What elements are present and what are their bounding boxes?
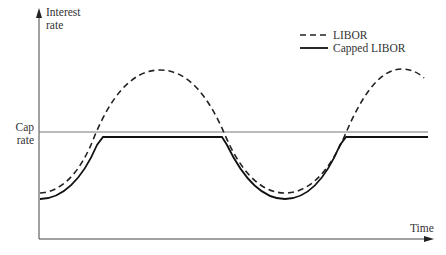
y-axis-arrow-icon <box>36 8 42 18</box>
cap-rate-label: Cap rate <box>12 121 34 147</box>
x-axis-arrow-icon <box>424 236 434 242</box>
cap-label-line2: rate <box>12 134 34 147</box>
chart-canvas <box>0 0 446 255</box>
y-axis-label-line1: Interest <box>46 6 80 19</box>
legend-capped-label: Capped LIBOR <box>333 42 406 55</box>
capped-libor-curve <box>40 137 428 199</box>
libor-curve <box>40 69 424 193</box>
y-axis-label-line2: rate <box>46 19 80 32</box>
x-axis-label: Time <box>410 222 434 235</box>
cap-label-line1: Cap <box>12 121 34 134</box>
legend-libor-label: LIBOR <box>333 29 368 42</box>
y-axis-label: Interest rate <box>46 6 80 32</box>
